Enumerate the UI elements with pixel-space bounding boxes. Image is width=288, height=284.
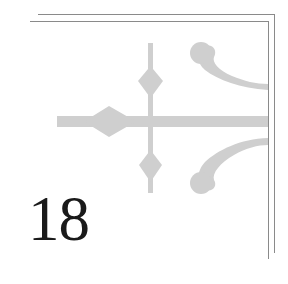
chapter-opening-page: 18 [0, 0, 288, 284]
chapter-number: 18 [28, 188, 89, 251]
